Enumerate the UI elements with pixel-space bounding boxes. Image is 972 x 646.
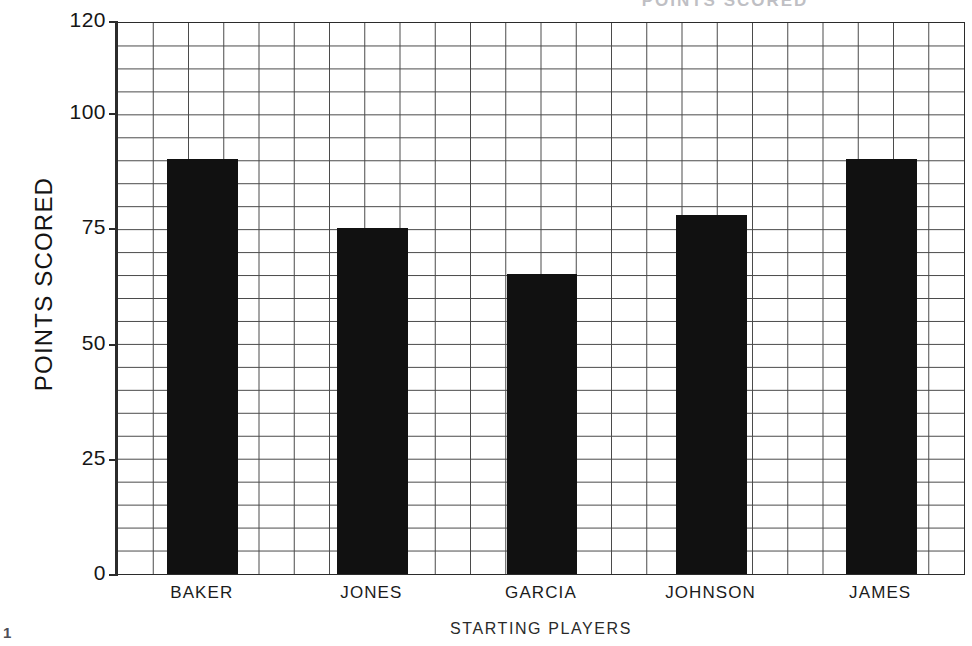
x-tick-label-johnson: JOHNSON — [626, 583, 796, 603]
chart-title: POINTS SCORED — [560, 0, 890, 7]
x-axis-title: STARTING PLAYERS — [117, 620, 965, 638]
y-axis-title: POINTS SCORED — [30, 124, 58, 444]
bar-baker — [167, 159, 238, 574]
y-tick-label-0: 0 — [44, 561, 106, 585]
bar-chart: POINTS SCORED POINTS SCORED 025507510012… — [0, 0, 972, 646]
y-tick-label-100: 100 — [44, 100, 106, 124]
y-tick-label-120: 120 — [44, 8, 106, 32]
x-tick-label-james: JAMES — [795, 583, 965, 603]
bar-garcia — [507, 274, 578, 574]
page-number: 1 — [3, 624, 11, 641]
y-tick-label-50: 50 — [44, 331, 106, 355]
x-tick-label-jones: JONES — [287, 583, 457, 603]
x-tick-label-baker: BAKER — [117, 583, 287, 603]
y-tick-label-25: 25 — [44, 446, 106, 470]
bar-johnson — [676, 215, 747, 574]
x-tick-label-garcia: GARCIA — [456, 583, 626, 603]
bars-group — [118, 23, 964, 574]
bar-jones — [337, 228, 408, 574]
bar-james — [846, 159, 917, 574]
plot-area — [117, 22, 965, 575]
y-tick-label-75: 75 — [44, 215, 106, 239]
